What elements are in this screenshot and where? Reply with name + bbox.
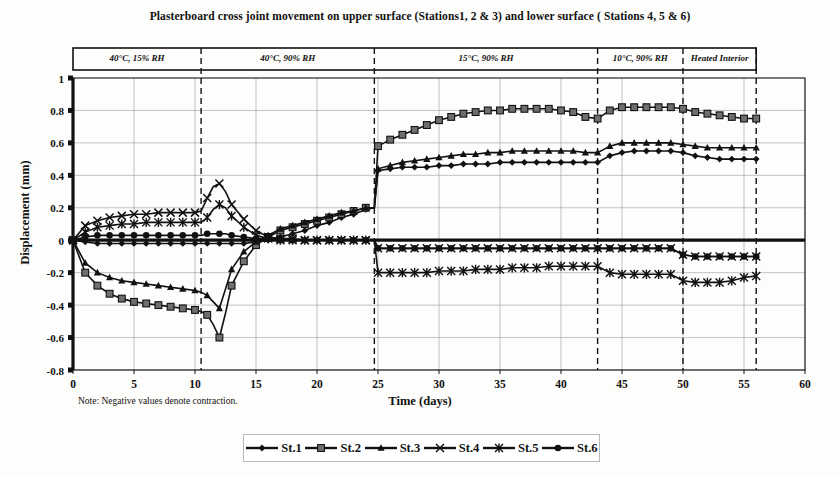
data-point: [631, 104, 638, 111]
chart-figure: Plasterboard cross joint movement on upp…: [0, 0, 840, 477]
data-point: [509, 105, 516, 112]
data-point: [704, 154, 711, 161]
data-point: [521, 245, 528, 252]
data-point: [521, 105, 528, 112]
data-point: [619, 245, 626, 252]
legend-marker-star-icon: [482, 440, 516, 456]
data-point: [631, 245, 638, 252]
legend-item-st5[interactable]: St.5: [482, 440, 539, 456]
x-tick-label: 30: [433, 378, 445, 390]
data-point: [338, 237, 345, 244]
data-point: [753, 156, 760, 163]
data-point: [667, 148, 674, 155]
data-point: [167, 232, 174, 239]
data-point: [606, 107, 613, 114]
data-point: [728, 114, 735, 121]
data-point: [82, 234, 89, 241]
phase-label-5: Heated Interior: [650, 53, 790, 63]
data-point: [436, 162, 443, 169]
data-point: [485, 245, 492, 252]
data-point: [716, 112, 723, 119]
data-point: [607, 245, 614, 252]
data-point: [143, 232, 150, 239]
data-point: [228, 211, 236, 220]
data-point: [655, 148, 662, 155]
data-point: [180, 232, 187, 239]
data-point: [570, 245, 577, 252]
data-point: [94, 282, 101, 289]
data-point: [387, 136, 394, 143]
data-point: [680, 252, 687, 259]
data-point: [643, 245, 650, 252]
data-point: [692, 109, 699, 116]
data-point: [363, 237, 370, 244]
y-tick-mark: [68, 108, 73, 113]
data-point: [619, 104, 626, 111]
legend-label: St.5: [517, 441, 539, 456]
y-tick-label: 0.2: [50, 202, 64, 214]
data-point: [240, 258, 247, 265]
data-point: [131, 232, 138, 239]
x-tick-label: 55: [738, 378, 750, 390]
data-point: [555, 445, 562, 452]
data-point: [472, 245, 479, 252]
data-point: [350, 237, 357, 244]
data-point: [436, 245, 443, 252]
data-point: [203, 213, 211, 222]
data-point: [215, 200, 223, 209]
data-point: [753, 115, 760, 122]
data-point: [192, 232, 199, 239]
legend-item-st1[interactable]: St.1: [245, 440, 302, 456]
y-tick-label: 0.6: [50, 137, 64, 149]
data-point: [192, 307, 199, 314]
data-point: [655, 245, 662, 252]
x-tick-label: 45: [616, 378, 628, 390]
x-tick-label: 60: [799, 378, 811, 390]
data-point: [460, 245, 467, 252]
data-point: [582, 159, 589, 166]
legend-marker-cross-icon: [423, 440, 457, 456]
data-point: [423, 164, 430, 171]
data-point: [668, 245, 675, 252]
legend-item-st6[interactable]: St.6: [541, 440, 598, 456]
y-tick-mark: [68, 270, 73, 275]
legend-item-st2[interactable]: St.2: [304, 440, 361, 456]
legend-marker-circle-icon: [541, 440, 575, 456]
data-point: [533, 159, 540, 166]
data-point: [131, 298, 138, 305]
y-axis-label: Displacement (mm): [18, 133, 33, 293]
data-point: [570, 109, 577, 116]
x-tick-label: 5: [131, 378, 137, 390]
data-point: [82, 269, 89, 276]
data-point: [399, 131, 406, 138]
data-point: [387, 245, 394, 252]
data-point: [228, 282, 235, 289]
x-tick-label: 35: [494, 378, 506, 390]
data-point: [106, 290, 113, 297]
data-point: [594, 245, 601, 252]
data-point: [411, 245, 418, 252]
legend-item-st4[interactable]: St.4: [423, 440, 480, 456]
phase-label-1: 40°C, 15% RH: [67, 53, 207, 63]
data-point: [545, 105, 552, 112]
y-tick-mark: [68, 76, 73, 81]
y-tick-mark: [68, 335, 73, 340]
data-point: [119, 232, 126, 239]
data-point: [318, 445, 325, 452]
phase-label-3: 15°C, 90% RH: [416, 53, 556, 63]
data-point: [302, 237, 309, 244]
data-point: [203, 194, 211, 202]
x-tick-label: 40: [555, 378, 567, 390]
data-point: [436, 117, 443, 124]
data-point: [509, 159, 516, 166]
data-point: [423, 122, 430, 129]
data-point: [716, 156, 723, 163]
data-point: [594, 159, 601, 166]
data-point: [155, 302, 162, 309]
phase-label-2: 40°C, 90% RH: [218, 53, 358, 63]
data-point: [265, 235, 272, 242]
data-point: [741, 115, 748, 122]
data-point: [216, 230, 223, 237]
data-point: [448, 114, 455, 121]
legend-item-st3[interactable]: St.3: [364, 440, 421, 456]
